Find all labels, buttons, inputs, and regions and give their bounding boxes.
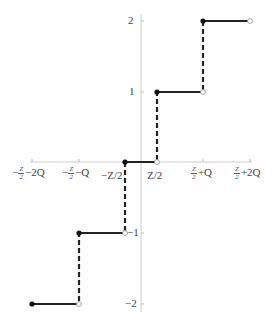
x-tick-label-minus-z2-minus-2q: −Z2−2Q [12,166,45,181]
z-over-2-fraction: Z2 [68,166,74,181]
x-tick-label-z2: Z/2 [147,170,162,181]
y-tick-label-2: 2 [128,15,134,26]
x-tick-label-minus-z2-minus-q: −Z2−Q [62,166,89,181]
x-tick-label-z2-plus-q: Z2+Q [191,166,212,181]
label-suffix: +2Q [241,166,261,178]
y-tick-label-minus-2: −2 [125,298,137,309]
label-suffix: +Q [198,166,212,178]
step-function-chart: 2 1 −1 −2 −Z2−2Q −Z2−Q −Z/2 Z/2 Z2+Q Z2+… [0,0,276,326]
plot-area [0,0,276,326]
z-over-2-fraction: Z2 [18,166,24,181]
z-over-2-fraction: Z2 [234,166,240,181]
z-over-2-fraction: Z2 [191,166,197,181]
label-suffix: −2Q [25,166,45,178]
label-suffix: −Q [75,166,89,178]
y-tick-label-minus-1: −1 [127,227,139,238]
y-tick-label-1: 1 [129,86,135,97]
x-tick-label-z2-plus-2q: Z2+2Q [234,166,261,181]
x-tick-label-minus-z2: −Z/2 [101,170,122,181]
